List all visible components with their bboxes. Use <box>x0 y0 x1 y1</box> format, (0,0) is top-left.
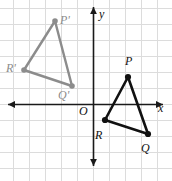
vertex-label-q: Q <box>141 141 150 155</box>
vertex-label-p-prime: P' <box>59 13 70 27</box>
vertex-label-q-prime: Q' <box>58 88 70 102</box>
y-axis-label: y <box>98 7 105 21</box>
vertex-point-q-prime <box>69 83 75 89</box>
vertex-point-p <box>125 74 131 80</box>
vertex-label-r-prime: R' <box>5 61 16 75</box>
coordinate-plane-svg: P'Q'R'PQR x y O <box>0 0 172 181</box>
vertex-label-p: P <box>124 54 133 68</box>
origin-label: O <box>79 104 88 118</box>
vertex-point-r-prime <box>21 67 27 73</box>
coordinate-plane-figure: P'Q'R'PQR x y O <box>0 0 172 181</box>
vertex-point-r <box>102 117 108 123</box>
vertex-point-q <box>145 131 151 137</box>
x-axis-label: x <box>157 101 164 115</box>
vertex-label-r: R <box>94 128 103 142</box>
vertex-point-p-prime <box>52 18 58 24</box>
